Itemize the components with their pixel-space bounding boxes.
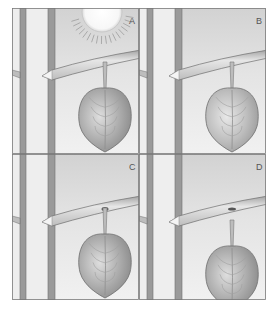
- petiole: [230, 62, 234, 90]
- petiole: [103, 208, 107, 236]
- background-trunk: [147, 8, 153, 154]
- panel-d: D: [139, 154, 268, 310]
- background-trunk: [147, 154, 153, 300]
- panel-a: A: [12, 0, 141, 154]
- main-trunk: [175, 8, 182, 154]
- panel-label: B: [256, 16, 262, 26]
- panel-b: B: [139, 8, 268, 154]
- background-trunk: [20, 8, 26, 154]
- main-trunk: [48, 8, 55, 154]
- main-trunk: [175, 154, 182, 300]
- panel-label: D: [256, 162, 263, 172]
- leaf-abscission-figure: ABCD: [0, 0, 276, 315]
- petiole: [230, 220, 234, 248]
- main-trunk: [48, 154, 55, 300]
- petiole: [103, 62, 107, 90]
- panel-c: C: [12, 154, 141, 300]
- panel-label: C: [129, 162, 136, 172]
- background-trunk: [20, 154, 26, 300]
- panel-label: A: [129, 16, 135, 26]
- leaf-scar: [228, 207, 236, 210]
